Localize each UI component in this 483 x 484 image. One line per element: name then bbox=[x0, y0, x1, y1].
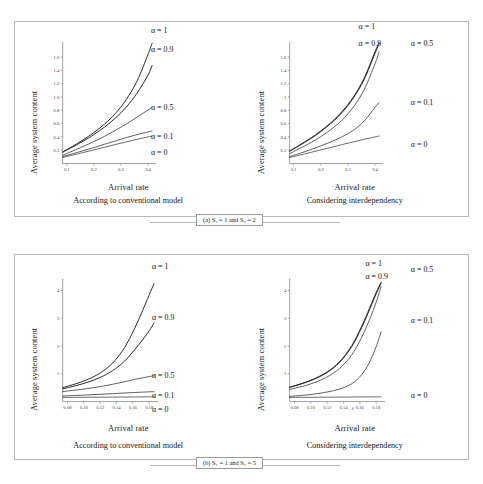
series-line bbox=[289, 332, 380, 397]
series-annotation: α = 1 bbox=[152, 262, 169, 271]
subplot-caption: According to conventional model bbox=[15, 196, 242, 205]
subplot-a-right: 0.20.40.60.811.21.41.60.10.20.30.4α = 1α… bbox=[242, 22, 469, 216]
svg-text:4: 4 bbox=[283, 288, 286, 293]
svg-text:0.6: 0.6 bbox=[280, 121, 286, 126]
series-annotation: α = 0.1 bbox=[410, 98, 433, 107]
x-axis-title: Arrival rate bbox=[242, 423, 469, 433]
x-axis-title: Arrival rate bbox=[242, 182, 469, 192]
svg-text:1.4: 1.4 bbox=[280, 68, 286, 73]
series-line bbox=[63, 284, 154, 388]
svg-text:1: 1 bbox=[283, 371, 285, 376]
svg-text:2: 2 bbox=[57, 344, 60, 349]
svg-text:0.1: 0.1 bbox=[64, 167, 70, 172]
svg-text:1.6: 1.6 bbox=[54, 55, 60, 60]
svg-text:1.0: 1.0 bbox=[54, 95, 60, 100]
svg-text:0.14: 0.14 bbox=[113, 405, 122, 410]
series-line bbox=[289, 52, 378, 154]
panel-a-tag: (a) S₁ = 1 and S₂ = 2 bbox=[196, 214, 263, 226]
svg-text:0.08: 0.08 bbox=[290, 405, 299, 410]
x-axis-title: Arrival rate bbox=[15, 182, 242, 192]
lambda-axis-symbol: λ bbox=[352, 406, 354, 411]
svg-text:1.4: 1.4 bbox=[54, 68, 60, 73]
x-axis-title: Arrival rate bbox=[15, 423, 242, 433]
series-annotation: α = 0.5 bbox=[152, 371, 175, 380]
series-line bbox=[63, 107, 152, 155]
svg-text:4: 4 bbox=[57, 288, 60, 293]
series-line bbox=[289, 44, 378, 151]
series-annotation: α = 0.1 bbox=[410, 316, 433, 325]
series-annotation: α = 0.1 bbox=[151, 132, 174, 141]
svg-text:1.6: 1.6 bbox=[280, 55, 286, 60]
series-line bbox=[63, 43, 152, 152]
svg-text:3: 3 bbox=[283, 316, 286, 321]
y-axis-title: Average system content bbox=[29, 328, 39, 411]
svg-text:1: 1 bbox=[283, 95, 285, 100]
series-annotation: α = 0.5 bbox=[410, 265, 433, 274]
svg-text:0.10: 0.10 bbox=[80, 405, 89, 410]
series-line bbox=[289, 397, 380, 398]
series-annotation: α = 0.5 bbox=[151, 103, 174, 112]
panel-a: 0.20.40.60.81.01.21.41.60.10.20.30.4α = … bbox=[14, 21, 469, 217]
series-annotation: α = 0.1 bbox=[152, 391, 175, 400]
subplot-caption: Considering interdependency bbox=[242, 441, 469, 450]
svg-text:0.2: 0.2 bbox=[280, 148, 286, 153]
svg-text:1: 1 bbox=[57, 371, 59, 376]
svg-text:3: 3 bbox=[57, 316, 60, 321]
svg-text:0.2: 0.2 bbox=[317, 167, 323, 172]
series-annotation: α = 0 bbox=[410, 140, 427, 149]
svg-text:0.16: 0.16 bbox=[355, 405, 364, 410]
svg-text:0.4: 0.4 bbox=[54, 135, 60, 140]
svg-text:1.2: 1.2 bbox=[280, 81, 286, 86]
y-axis-title: Average system content bbox=[29, 91, 39, 174]
subplot-a-left: 0.20.40.60.81.01.21.41.60.10.20.30.4α = … bbox=[15, 22, 242, 216]
svg-text:0.8: 0.8 bbox=[54, 108, 60, 113]
panel-b-tag: (b) S₁ = 1 and S₂ = 5 bbox=[196, 457, 263, 469]
series-annotation: α = 1 bbox=[358, 22, 375, 31]
subplot-b-right: 12340.080.100.120.140.160.18α = 1α = 0.9… bbox=[242, 255, 469, 459]
series-line bbox=[289, 42, 378, 150]
series-line bbox=[63, 397, 154, 398]
subplot-caption: Considering interdependency bbox=[242, 196, 469, 205]
svg-text:0.2: 0.2 bbox=[54, 148, 60, 153]
y-axis-title: Average system content bbox=[256, 91, 266, 174]
series-annotation: α = 1 bbox=[151, 26, 168, 35]
svg-text:0.3: 0.3 bbox=[118, 167, 124, 172]
series-line bbox=[289, 287, 380, 390]
svg-text:0.6: 0.6 bbox=[54, 121, 60, 126]
series-annotation: α = 0.9 bbox=[358, 39, 381, 48]
svg-text:0.16: 0.16 bbox=[129, 405, 138, 410]
svg-text:0.4: 0.4 bbox=[372, 167, 378, 172]
svg-text:0.4: 0.4 bbox=[145, 167, 151, 172]
panel-b: 12340.080.100.120.140.160.18α = 1α = 0.9… bbox=[14, 254, 469, 460]
series-annotation: α = 0.5 bbox=[410, 39, 433, 48]
svg-text:0.18: 0.18 bbox=[372, 405, 381, 410]
svg-text:0.4: 0.4 bbox=[280, 135, 286, 140]
subplot-caption: According to conventional model bbox=[15, 441, 242, 450]
series-annotation: α = 0.9 bbox=[151, 45, 174, 54]
svg-text:0.14: 0.14 bbox=[339, 405, 348, 410]
figure-root: 0.20.40.60.81.01.21.41.60.10.20.30.4α = … bbox=[0, 0, 483, 484]
svg-text:2: 2 bbox=[283, 344, 286, 349]
svg-text:0.08: 0.08 bbox=[64, 405, 73, 410]
svg-text:0.2: 0.2 bbox=[91, 167, 97, 172]
series-annotation: α = 1 bbox=[365, 259, 382, 268]
svg-text:0.12: 0.12 bbox=[96, 405, 105, 410]
series-annotation: α = 0 bbox=[152, 405, 169, 414]
subplot-b-left: 12340.080.100.120.140.160.18α = 1α = 0.9… bbox=[15, 255, 242, 459]
series-line bbox=[289, 103, 378, 157]
series-line bbox=[63, 392, 154, 396]
series-annotation: α = 0.9 bbox=[365, 272, 388, 281]
svg-text:0.3: 0.3 bbox=[345, 167, 351, 172]
y-axis-title: Average system content bbox=[256, 328, 266, 411]
svg-text:0.10: 0.10 bbox=[306, 405, 315, 410]
series-line bbox=[63, 323, 154, 389]
series-annotation: α = 0 bbox=[151, 148, 168, 157]
svg-text:1.2: 1.2 bbox=[54, 81, 60, 86]
series-annotation: α = 0.9 bbox=[152, 313, 175, 322]
svg-text:0.8: 0.8 bbox=[280, 108, 286, 113]
series-annotation: α = 0 bbox=[410, 391, 427, 400]
series-line bbox=[63, 136, 152, 157]
svg-text:0.12: 0.12 bbox=[323, 405, 332, 410]
svg-text:0.1: 0.1 bbox=[290, 167, 296, 172]
